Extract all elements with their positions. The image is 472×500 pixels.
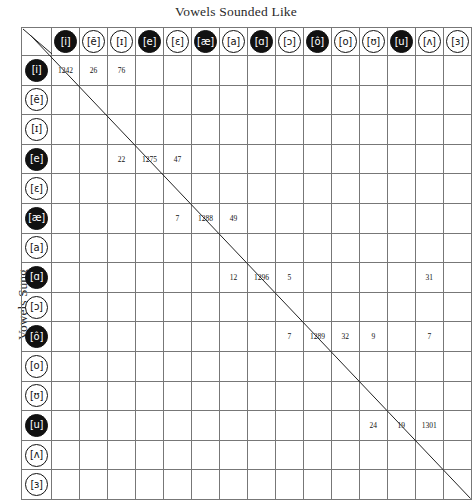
matrix-cell-r7-c12[interactable]: [359, 233, 387, 263]
matrix-cell-r4-c13[interactable]: [387, 144, 415, 174]
matrix-cell-r10-c12[interactable]: 9: [359, 322, 387, 352]
column-header-8[interactable]: [ɑ]: [247, 28, 275, 56]
matrix-cell-r3-c8[interactable]: [247, 115, 275, 145]
matrix-cell-r9-c14[interactable]: [415, 292, 443, 322]
matrix-cell-r11-c8[interactable]: [247, 351, 275, 381]
matrix-cell-r2-c2[interactable]: [80, 85, 108, 115]
matrix-cell-r6-c5[interactable]: 7: [163, 203, 191, 233]
matrix-cell-r5-c15[interactable]: [443, 174, 471, 204]
matrix-cell-r4-c12[interactable]: [359, 144, 387, 174]
matrix-cell-r4-c1[interactable]: [52, 144, 80, 174]
matrix-cell-r14-c15[interactable]: [443, 440, 471, 470]
matrix-cell-r8-c6[interactable]: [191, 263, 219, 293]
matrix-cell-r14-c11[interactable]: [331, 440, 359, 470]
matrix-cell-r15-c3[interactable]: [108, 470, 136, 500]
matrix-cell-r2-c12[interactable]: [359, 85, 387, 115]
matrix-cell-r14-c1[interactable]: [52, 440, 80, 470]
matrix-cell-r15-c5[interactable]: [163, 470, 191, 500]
matrix-cell-r11-c6[interactable]: [191, 351, 219, 381]
matrix-cell-r1-c3[interactable]: 76: [108, 56, 136, 86]
matrix-cell-r9-c12[interactable]: [359, 292, 387, 322]
matrix-cell-r5-c14[interactable]: [415, 174, 443, 204]
column-header-10[interactable]: [ô]: [303, 28, 331, 56]
matrix-cell-r1-c12[interactable]: [359, 56, 387, 86]
matrix-cell-r12-c4[interactable]: [135, 381, 163, 411]
matrix-cell-r15-c1[interactable]: [52, 470, 80, 500]
matrix-cell-r3-c14[interactable]: [415, 115, 443, 145]
matrix-cell-r13-c2[interactable]: [80, 411, 108, 441]
matrix-cell-r4-c11[interactable]: [331, 144, 359, 174]
matrix-cell-r14-c6[interactable]: [191, 440, 219, 470]
matrix-cell-r1-c4[interactable]: [135, 56, 163, 86]
matrix-cell-r3-c13[interactable]: [387, 115, 415, 145]
matrix-cell-r12-c13[interactable]: [387, 381, 415, 411]
matrix-cell-r10-c5[interactable]: [163, 322, 191, 352]
matrix-cell-r11-c7[interactable]: [219, 351, 247, 381]
matrix-cell-r10-c2[interactable]: [80, 322, 108, 352]
matrix-cell-r9-c5[interactable]: [163, 292, 191, 322]
matrix-cell-r12-c1[interactable]: [52, 381, 80, 411]
matrix-cell-r12-c2[interactable]: [80, 381, 108, 411]
matrix-cell-r4-c6[interactable]: [191, 144, 219, 174]
matrix-cell-r14-c7[interactable]: [219, 440, 247, 470]
matrix-cell-r4-c9[interactable]: [275, 144, 303, 174]
row-header-9[interactable]: [ɔ]: [22, 292, 52, 322]
matrix-cell-r8-c10[interactable]: [303, 263, 331, 293]
matrix-cell-r11-c1[interactable]: [52, 351, 80, 381]
matrix-cell-r2-c13[interactable]: [387, 85, 415, 115]
row-header-11[interactable]: [o]: [22, 351, 52, 381]
matrix-cell-r2-c6[interactable]: [191, 85, 219, 115]
column-header-14[interactable]: [ʌ]: [415, 28, 443, 56]
matrix-cell-r9-c1[interactable]: [52, 292, 80, 322]
matrix-cell-r13-c13[interactable]: 19: [387, 411, 415, 441]
matrix-cell-r11-c4[interactable]: [135, 351, 163, 381]
matrix-cell-r3-c10[interactable]: [303, 115, 331, 145]
matrix-cell-r8-c7[interactable]: 12: [219, 263, 247, 293]
column-header-15[interactable]: [ɜ]: [443, 28, 471, 56]
matrix-cell-r4-c8[interactable]: [247, 144, 275, 174]
matrix-cell-r11-c3[interactable]: [108, 351, 136, 381]
matrix-cell-r5-c12[interactable]: [359, 174, 387, 204]
matrix-cell-r10-c15[interactable]: [443, 322, 471, 352]
matrix-cell-r5-c13[interactable]: [387, 174, 415, 204]
matrix-cell-r8-c4[interactable]: [135, 263, 163, 293]
matrix-cell-r14-c12[interactable]: [359, 440, 387, 470]
row-header-14[interactable]: [ʌ]: [22, 440, 52, 470]
matrix-cell-r6-c12[interactable]: [359, 203, 387, 233]
matrix-cell-r13-c8[interactable]: [247, 411, 275, 441]
column-header-3[interactable]: [ɪ]: [108, 28, 136, 56]
matrix-cell-r3-c2[interactable]: [80, 115, 108, 145]
matrix-cell-r2-c8[interactable]: [247, 85, 275, 115]
matrix-cell-r8-c2[interactable]: [80, 263, 108, 293]
matrix-cell-r14-c3[interactable]: [108, 440, 136, 470]
matrix-cell-r10-c3[interactable]: [108, 322, 136, 352]
matrix-cell-r2-c7[interactable]: [219, 85, 247, 115]
matrix-cell-r5-c2[interactable]: [80, 174, 108, 204]
matrix-cell-r9-c6[interactable]: [191, 292, 219, 322]
matrix-cell-r15-c11[interactable]: [331, 470, 359, 500]
matrix-cell-r6-c9[interactable]: [275, 203, 303, 233]
matrix-cell-r14-c5[interactable]: [163, 440, 191, 470]
matrix-cell-r8-c14[interactable]: 31: [415, 263, 443, 293]
matrix-cell-r8-c8[interactable]: 1296: [247, 263, 275, 293]
matrix-cell-r5-c5[interactable]: [163, 174, 191, 204]
matrix-cell-r12-c5[interactable]: [163, 381, 191, 411]
matrix-cell-r10-c14[interactable]: 7: [415, 322, 443, 352]
matrix-cell-r6-c13[interactable]: [387, 203, 415, 233]
matrix-cell-r1-c6[interactable]: [191, 56, 219, 86]
matrix-cell-r7-c6[interactable]: [191, 233, 219, 263]
row-header-4[interactable]: [e]: [22, 144, 52, 174]
column-header-12[interactable]: [ʊ]: [359, 28, 387, 56]
matrix-cell-r12-c9[interactable]: [275, 381, 303, 411]
column-header-6[interactable]: [æ]: [191, 28, 219, 56]
matrix-cell-r12-c14[interactable]: [415, 381, 443, 411]
matrix-cell-r7-c4[interactable]: [135, 233, 163, 263]
matrix-cell-r2-c11[interactable]: [331, 85, 359, 115]
column-header-1[interactable]: [i]: [52, 28, 80, 56]
matrix-cell-r14-c10[interactable]: [303, 440, 331, 470]
column-header-7[interactable]: [a]: [219, 28, 247, 56]
matrix-cell-r11-c5[interactable]: [163, 351, 191, 381]
matrix-cell-r11-c10[interactable]: [303, 351, 331, 381]
matrix-cell-r10-c8[interactable]: [247, 322, 275, 352]
matrix-cell-r13-c3[interactable]: [108, 411, 136, 441]
